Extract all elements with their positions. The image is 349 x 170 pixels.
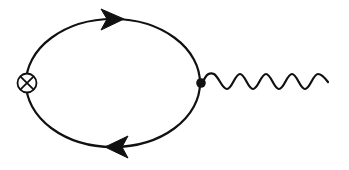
- diagram-canvas: [0, 0, 349, 170]
- otimes-insertion-icon: [18, 74, 37, 93]
- wavy-boson-line: [203, 73, 328, 89]
- fermion-loop: [26, 19, 200, 147]
- vertex-dot-icon: [196, 78, 206, 88]
- feynman-diagram: One-loop fermion loop with an operator i…: [0, 0, 349, 170]
